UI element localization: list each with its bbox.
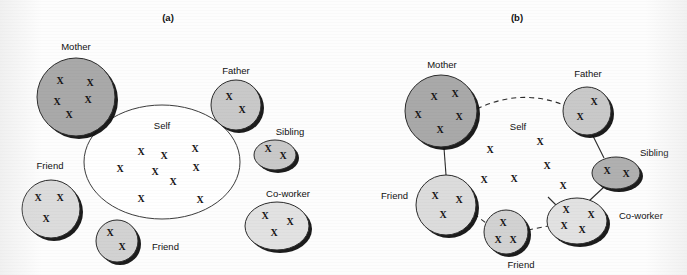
node-shape[interactable]	[254, 140, 296, 170]
node-shape[interactable]	[37, 58, 115, 136]
self-x-mark: X	[196, 194, 204, 205]
node-father[interactable]: XXFather	[211, 65, 264, 133]
panel-b: (b)XXXXXXSelfXXXXXMotherXXFatherXXSiblin…	[381, 12, 668, 270]
member-x-mark: X	[499, 217, 507, 228]
node-shape[interactable]	[592, 157, 640, 189]
self-x-mark: X	[559, 180, 567, 191]
link-friendbottom-coworker	[528, 226, 548, 230]
node-friend-bottom[interactable]: XXXFriend	[484, 210, 534, 270]
social-network-figure: (a)XXXXXXXXXSelfXXXXXMotherXXFatherXXSib…	[0, 0, 687, 275]
member-x-mark: X	[238, 104, 246, 115]
member-x-mark: X	[53, 96, 61, 107]
node-label-sibling: Sibling	[640, 147, 669, 158]
panel-title-b: (b)	[511, 12, 523, 23]
node-label-co-worker: Co-worker	[266, 188, 310, 199]
member-x-mark: X	[576, 111, 584, 122]
member-x-mark: X	[451, 88, 459, 99]
node-label-father: Father	[222, 65, 249, 76]
link-mother-friend	[444, 148, 446, 175]
node-shape[interactable]	[416, 175, 476, 235]
panel-a: (a)XXXXXXXXXSelfXXXXXMotherXXFatherXXSib…	[22, 12, 312, 265]
node-label-friend-left: Friend	[37, 160, 64, 171]
member-x-mark: X	[225, 91, 233, 102]
self-x-mark: X	[543, 160, 551, 171]
self-region-b[interactable]: XXXXXXSelf	[480, 121, 567, 191]
member-x-mark: X	[509, 234, 517, 245]
member-x-mark: X	[279, 150, 287, 161]
member-x-mark: X	[455, 194, 463, 205]
link-mother-father	[477, 97, 564, 109]
node-sibling[interactable]: XXSibling	[254, 126, 304, 173]
self-x-mark: X	[137, 146, 145, 157]
member-x-mark: X	[286, 216, 294, 227]
node-co-worker[interactable]: XXXCo-worker	[245, 188, 312, 253]
member-x-mark: X	[34, 192, 42, 203]
member-x-mark: X	[430, 91, 438, 102]
node-friend-left[interactable]: XXXFriend	[22, 160, 83, 241]
member-x-mark: X	[84, 94, 92, 105]
member-x-mark: X	[622, 168, 630, 179]
member-x-mark: X	[562, 204, 570, 215]
self-label: Self	[154, 120, 171, 131]
node-label-sibling: Sibling	[276, 126, 305, 137]
node-shape[interactable]	[96, 220, 138, 262]
member-x-mark: X	[431, 190, 439, 201]
member-x-mark: X	[56, 75, 64, 86]
node-label-mother: Mother	[427, 59, 457, 70]
self-x-mark: X	[480, 174, 488, 185]
node-label-mother: Mother	[61, 41, 91, 52]
member-x-mark: X	[603, 165, 611, 176]
member-x-mark: X	[455, 111, 463, 122]
member-x-mark: X	[118, 241, 126, 252]
node-label-co-worker: Co-worker	[619, 210, 663, 221]
member-x-mark: X	[439, 209, 447, 220]
self-x-mark: X	[192, 162, 200, 173]
link-coworker-self	[548, 197, 556, 205]
member-x-mark: X	[590, 96, 598, 107]
member-x-mark: X	[560, 220, 568, 231]
member-x-mark: X	[436, 124, 444, 135]
panel-title-a: (a)	[162, 12, 174, 23]
node-co-worker[interactable]: XXXXCo-worker	[547, 198, 663, 247]
link-sibling-coworker	[589, 187, 604, 201]
member-x-mark: X	[65, 109, 73, 120]
node-friend-bottom[interactable]: XXFriend	[96, 220, 179, 265]
member-x-mark: X	[494, 234, 502, 245]
member-x-mark: X	[578, 224, 586, 235]
self-x-mark: X	[116, 163, 124, 174]
self-x-mark: X	[169, 176, 177, 187]
node-friend-left[interactable]: XXXFriend	[381, 175, 479, 238]
node-mother[interactable]: XXXXXMother	[37, 41, 118, 139]
member-x-mark: X	[86, 77, 94, 88]
member-x-mark: X	[42, 213, 50, 224]
node-label-friend-left: Friend	[381, 190, 408, 201]
self-x-mark: X	[191, 143, 199, 154]
self-x-mark: X	[151, 166, 159, 177]
node-shape[interactable]	[22, 180, 80, 238]
member-x-mark: X	[106, 227, 114, 238]
node-sibling[interactable]: XXSibling	[592, 147, 669, 192]
node-mother[interactable]: XXXXXMother	[405, 59, 480, 150]
figure-canvas: (a)XXXXXXXXXSelfXXXXXMotherXXFatherXXSib…	[0, 0, 687, 275]
self-x-mark: X	[486, 144, 494, 155]
member-x-mark: X	[56, 192, 64, 203]
node-shape[interactable]	[547, 198, 607, 244]
self-x-mark: X	[160, 150, 168, 161]
self-x-mark: X	[137, 193, 145, 204]
node-label-father: Father	[574, 68, 601, 79]
member-x-mark: X	[587, 209, 595, 220]
self-x-mark: X	[510, 173, 518, 184]
node-label-friend-bottom: Friend	[508, 259, 535, 270]
member-x-mark: X	[270, 227, 278, 238]
node-shape[interactable]	[245, 202, 309, 250]
node-label-friend-bottom: Friend	[152, 241, 179, 252]
self-x-mark: X	[536, 136, 544, 147]
self-label: Self	[510, 121, 527, 132]
member-x-mark: X	[264, 143, 272, 154]
node-shape[interactable]	[563, 87, 611, 135]
node-shape[interactable]	[211, 80, 261, 130]
member-x-mark: X	[261, 210, 269, 221]
member-x-mark: X	[414, 109, 422, 120]
node-father[interactable]: XXFather	[563, 68, 614, 138]
